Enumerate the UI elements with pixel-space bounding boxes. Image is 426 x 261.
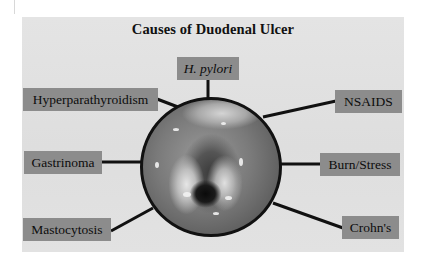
cause-label-gastrinoma: Gastrinoma — [24, 151, 102, 174]
connector-mastocytosis — [111, 208, 153, 231]
cause-label-hyperparathyroidism: Hyperparathyroidism — [23, 88, 158, 111]
cause-label-nsaids: NSAIDS — [335, 90, 402, 113]
cause-label-h-pylori: H. pylori — [177, 57, 239, 80]
cause-label-mastocytosis: Mastocytosis — [23, 218, 111, 241]
endoscopy-image — [140, 97, 282, 237]
cause-label-burn-stress: Burn/Stress — [320, 153, 400, 176]
cause-label-crohns: Crohn's — [342, 216, 399, 239]
connector-nsaids — [263, 101, 336, 117]
connector-crohns — [273, 203, 343, 228]
